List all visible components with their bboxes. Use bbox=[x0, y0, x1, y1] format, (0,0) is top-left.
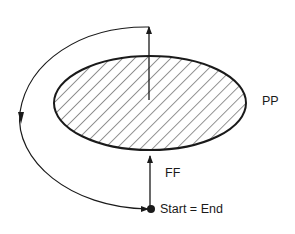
return-arc-midarrow-icon bbox=[18, 112, 24, 124]
label-start-end: Start = End bbox=[160, 203, 223, 216]
label-pp: PP bbox=[262, 95, 279, 108]
start-end-point bbox=[147, 205, 155, 213]
hatched-region-pp bbox=[54, 56, 246, 150]
label-ff: FF bbox=[165, 167, 180, 180]
cycle-diagram bbox=[0, 0, 295, 234]
